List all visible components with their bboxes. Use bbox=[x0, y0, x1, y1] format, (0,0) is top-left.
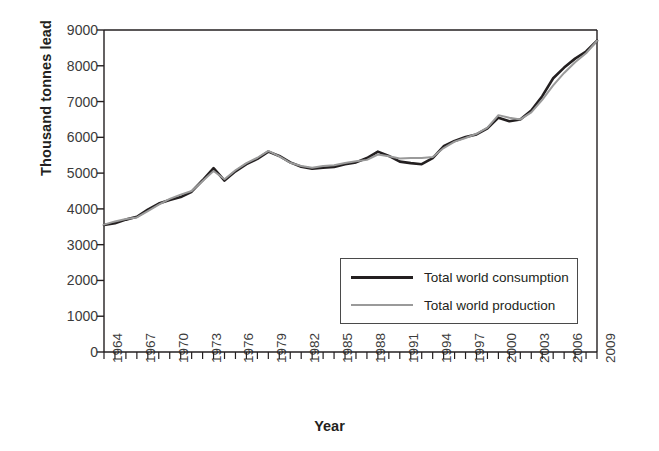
plot-canvas bbox=[0, 0, 659, 451]
x-axis-title: Year bbox=[0, 418, 659, 434]
series-line bbox=[104, 41, 597, 225]
line-chart-figure: Thousand tonnes lead 9000800070006000500… bbox=[0, 0, 659, 451]
data-series-group bbox=[104, 41, 597, 225]
x-axis-ticks bbox=[104, 352, 597, 359]
legend-swatch-consumption bbox=[351, 276, 413, 279]
legend-item-consumption: Total world consumption bbox=[351, 266, 569, 288]
legend-label-consumption: Total world consumption bbox=[424, 270, 569, 285]
legend-label-production: Total world production bbox=[424, 298, 555, 313]
legend-swatch-production bbox=[351, 304, 413, 306]
legend-item-production: Total world production bbox=[351, 294, 555, 316]
y-axis-ticks bbox=[97, 30, 104, 352]
chart-legend: Total world consumption Total world prod… bbox=[340, 258, 578, 324]
